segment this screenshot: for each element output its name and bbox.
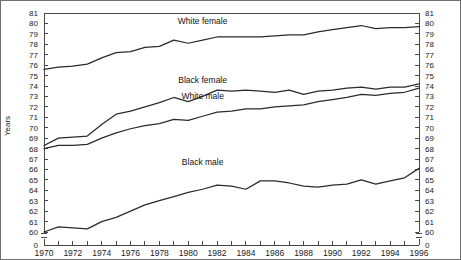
y-tick-label: 80: [425, 19, 434, 28]
series-line-black-female: [44, 84, 419, 146]
chart-canvas: 6061626364656667686970717273747576777879…: [0, 0, 461, 260]
y-tick-label: 68: [425, 145, 434, 154]
series-line-white-male: [44, 88, 419, 148]
y-tick-label: 62: [425, 207, 434, 216]
y-tick-label: 80: [29, 19, 38, 28]
y-tick-label: 64: [425, 186, 434, 195]
x-axis-ticks: [44, 241, 419, 245]
y-tick-label: 73: [29, 92, 38, 101]
plot-frame: [41, 13, 422, 245]
y-tick-label: 72: [425, 103, 434, 112]
y-tick-label: 66: [29, 165, 38, 174]
y-tick-label: 70: [29, 124, 38, 133]
x-tick-label: 1994: [381, 248, 400, 258]
y-tick-label: 71: [425, 113, 434, 122]
y-tick-label: 63: [29, 197, 38, 206]
y-tick-label: 75: [425, 72, 434, 81]
y-tick-label: 67: [29, 155, 38, 164]
y-tick-label: 74: [425, 82, 434, 91]
x-tick-label: 1970: [35, 248, 54, 258]
y-tick-label: 79: [29, 30, 38, 39]
y-tick-label: 60: [425, 228, 434, 237]
y-axis-tick-labels-right: 6061626364656667686970717273747576777879…: [425, 9, 434, 250]
x-tick-label: 1978: [150, 248, 169, 258]
x-tick-label: 1988: [294, 248, 313, 258]
data-series-group: [44, 26, 419, 232]
y-tick-label: 62: [29, 207, 38, 216]
x-tick-label: 1974: [92, 248, 111, 258]
y-axis-ticks-left: [44, 13, 48, 232]
y-tick-label: 71: [29, 113, 38, 122]
y-tick-label: 60: [29, 228, 38, 237]
y-tick-label: 63: [425, 197, 434, 206]
y-tick-label: 68: [29, 145, 38, 154]
y-axis-tick-labels-left: 6061626364656667686970717273747576777879…: [29, 9, 38, 250]
x-tick-label: 1986: [265, 248, 284, 258]
x-tick-label: 1982: [208, 248, 227, 258]
y-tick-label: 76: [425, 61, 434, 70]
y-tick-label: 69: [29, 134, 38, 143]
x-tick-label: 1980: [179, 248, 198, 258]
y-tick-label: 70: [425, 124, 434, 133]
series-label-white-female: White female: [178, 16, 228, 26]
x-tick-label: 1992: [352, 248, 371, 258]
y-tick-label: 78: [425, 40, 434, 49]
x-tick-label: 1984: [236, 248, 255, 258]
series-label-black-male: Black male: [182, 157, 224, 167]
series-label-white-male: White male: [181, 91, 224, 101]
x-tick-label: 1972: [63, 248, 82, 258]
y-tick-label: 64: [29, 186, 38, 195]
y-tick-label: 65: [29, 176, 38, 185]
y-tick-label: 61: [425, 218, 434, 227]
series-line-white-female: [44, 26, 419, 70]
y-tick-label: 65: [425, 176, 434, 185]
y-tick-label: 66: [425, 165, 434, 174]
y-tick-label: 69: [425, 134, 434, 143]
series-label-black-female: Black female: [178, 75, 227, 85]
y-tick-label: 74: [29, 82, 38, 91]
y-tick-label: 78: [29, 40, 38, 49]
y-tick-label: 76: [29, 61, 38, 70]
series-line-black-male: [44, 168, 419, 232]
x-axis-tick-labels: 1970197219741976197819801982198419861988…: [35, 248, 429, 258]
y-tick-label: 61: [29, 218, 38, 227]
y-tick-label: 75: [29, 72, 38, 81]
x-tick-label: 1976: [121, 248, 140, 258]
series-inline-labels: White femaleBlack femaleWhite maleBlack …: [178, 16, 228, 167]
y-tick-label: 81: [425, 9, 434, 18]
y-tick-label: 79: [425, 30, 434, 39]
y-axis-title: Years: [3, 116, 12, 136]
x-tick-label: 1990: [323, 248, 342, 258]
y-tick-label: 81: [29, 9, 38, 18]
y-axis-ticks-right: [415, 13, 419, 232]
y-tick-label: 72: [29, 103, 38, 112]
y-tick-label: 73: [425, 92, 434, 101]
x-tick-label: 1996: [410, 248, 429, 258]
y-tick-label: 77: [29, 51, 38, 60]
y-tick-label: 77: [425, 51, 434, 60]
y-tick-label: 67: [425, 155, 434, 164]
life-expectancy-chart-figure: 6061626364656667686970717273747576777879…: [0, 0, 461, 260]
